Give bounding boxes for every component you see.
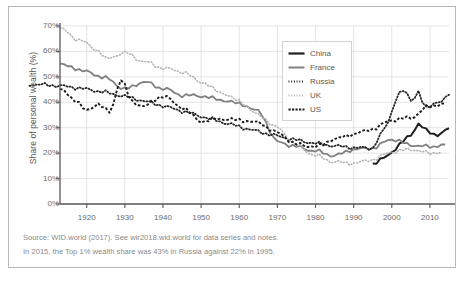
legend-item-russia[interactable]: Russia	[288, 74, 347, 88]
legend-item-label: US	[310, 105, 321, 114]
series-line-us	[60, 80, 445, 147]
legend-swatch-icon	[288, 49, 305, 58]
x-tick-label: 2000	[372, 213, 412, 222]
legend-swatch-icon	[288, 63, 305, 72]
chart-legend: ChinaFranceRussiaUKUS	[282, 41, 352, 121]
legend-item-france[interactable]: France	[288, 60, 347, 74]
legend-item-uk[interactable]: UK	[288, 88, 347, 102]
y-tick-label: 50%	[29, 72, 59, 81]
legend-item-label: France	[310, 63, 335, 72]
chart-figure: Share of personal wealth (%) 0%10%20%30%…	[8, 6, 456, 268]
x-tick-label: 1990	[334, 213, 374, 222]
legend-item-label: UK	[310, 91, 321, 100]
x-tick-label: 1930	[105, 213, 145, 222]
x-tick-label: 2010	[410, 213, 450, 222]
legend-item-label: Russia	[310, 77, 334, 86]
series-line-china	[373, 124, 449, 164]
y-axis-tick-labels: 0%10%20%30%40%50%60%70%	[27, 7, 59, 225]
legend-swatch-icon	[288, 105, 305, 114]
chart-footnotes: Source: WID.world (2017). See wir2018.wi…	[23, 231, 443, 259]
legend-swatch-icon	[288, 91, 305, 100]
chart-svg	[9, 7, 455, 225]
x-tick-label: 1920	[67, 213, 107, 222]
footnote-source: Source: WID.world (2017). See wir2018.wi…	[23, 231, 443, 245]
x-tick-label: 1950	[181, 213, 221, 222]
y-tick-label: 10%	[29, 174, 59, 183]
legend-swatch-icon	[288, 77, 305, 86]
y-tick-label: 20%	[29, 148, 59, 157]
x-tick-label: 1940	[143, 213, 183, 222]
x-tick-label: 1980	[296, 213, 336, 222]
footnote-note: In 2015, the Top 1% wealth share was 43%…	[23, 245, 443, 259]
y-tick-label: 30%	[29, 123, 59, 132]
legend-item-china[interactable]: China	[288, 46, 347, 60]
chart-plot-area: Share of personal wealth (%) 0%10%20%30%…	[9, 7, 455, 225]
y-tick-label: 60%	[29, 46, 59, 55]
y-tick-label: 0%	[29, 199, 59, 208]
series-line-uk	[60, 28, 441, 166]
x-tick-label: 1960	[219, 213, 259, 222]
legend-item-us[interactable]: US	[288, 102, 347, 116]
series-line-france	[60, 64, 445, 157]
x-axis-tick-labels: 1920193019401950196019701980199020002010	[9, 213, 455, 229]
y-tick-label: 40%	[29, 97, 59, 106]
x-tick-label: 1970	[257, 213, 297, 222]
legend-item-label: China	[310, 49, 331, 58]
y-tick-label: 70%	[29, 21, 59, 30]
